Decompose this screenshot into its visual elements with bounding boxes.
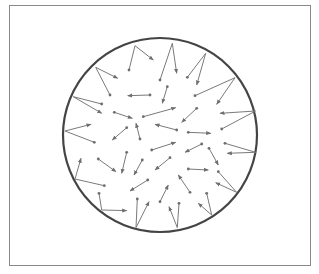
molecule-dot [208,147,211,150]
molecule [182,107,198,122]
velocity-arrow [134,160,142,175]
velocity-arrow [187,53,205,85]
velocity-arrow [65,124,94,142]
molecule [130,179,149,191]
molecule-dot [220,128,223,131]
molecule-dot [194,94,197,97]
molecule-dot [159,200,162,203]
molecule [142,108,176,118]
molecule-dot [166,85,169,88]
molecule [73,97,103,114]
molecule [128,94,152,97]
molecule-arrows [65,43,256,227]
molecule [162,85,168,103]
molecule-dot [139,138,142,141]
velocity-arrow [122,152,127,173]
molecule [112,126,128,140]
gas-container-diagram [0,0,319,274]
velocity-arrow [188,169,208,170]
velocity-arrow [136,123,140,139]
figure-frame [10,6,311,266]
velocity-arrow [209,148,218,165]
molecule-dot [136,198,139,201]
velocity-arrow [220,111,256,129]
molecule-dot [125,151,128,154]
velocity-arrow [136,199,149,228]
molecule [186,53,206,85]
molecule [198,192,211,215]
molecule [159,43,177,81]
molecule-dot [100,103,103,106]
velocity-arrow [99,193,127,210]
molecule-dot [97,158,100,161]
molecule-dot [113,111,116,114]
molecule [96,67,118,96]
velocity-arrow [155,158,170,170]
molecule-dot [175,129,178,132]
molecule-dot [125,126,128,129]
molecule [208,147,219,165]
velocity-arrow [185,144,202,152]
velocity-arrow [162,87,167,104]
velocity-arrow [225,143,256,153]
molecule-dot [195,107,198,110]
molecule-dot [186,76,189,79]
velocity-arrow [152,142,176,150]
molecule [98,192,127,211]
molecule-dot [103,184,106,187]
molecule [169,202,180,228]
velocity-arrow [169,203,179,227]
molecule [220,111,256,130]
molecule-dot [224,142,227,145]
molecule [136,123,141,140]
molecule-dot [217,170,220,173]
velocity-arrow [96,67,118,95]
velocity-arrow [112,128,126,140]
diagram-canvas [0,0,319,274]
molecule-dot [146,179,149,182]
molecule-dot [142,115,145,118]
velocity-arrow [130,180,148,191]
molecule [224,142,256,153]
molecule-dot [200,143,203,146]
molecule-dot [98,192,101,195]
molecule [187,131,211,134]
velocity-arrow [160,185,168,202]
molecule [65,124,96,143]
molecule-dot [109,94,112,97]
molecule-dot [159,79,162,82]
molecule-dot [205,192,208,195]
molecule [178,175,191,194]
molecule-dot [93,141,96,144]
velocity-arrow [198,193,211,215]
velocity-arrow [155,124,177,130]
velocity-arrow [98,159,116,172]
velocity-arrow [216,172,237,193]
molecule [122,151,128,173]
molecule [134,159,144,175]
molecule-dot [187,131,190,134]
velocity-arrow [195,78,235,105]
molecule-dot [169,156,172,159]
molecule-dot [141,159,144,162]
molecule [150,142,175,151]
velocity-arrow [178,175,190,192]
velocity-arrow [188,132,210,133]
molecule [75,158,106,187]
velocity-arrow [73,97,101,114]
molecule-dot [189,191,192,194]
velocity-arrow [75,158,104,185]
molecule [136,198,149,228]
molecule-dot [187,168,190,171]
molecule-dot [150,149,153,152]
velocity-arrow [114,112,132,118]
molecule [155,124,178,131]
molecule-dot [178,202,181,205]
molecule [187,168,208,171]
velocity-arrow [129,46,153,70]
velocity-arrow [160,43,177,80]
molecule [185,143,203,153]
molecule [113,111,132,118]
velocity-arrow [143,108,175,117]
molecule [97,158,116,172]
